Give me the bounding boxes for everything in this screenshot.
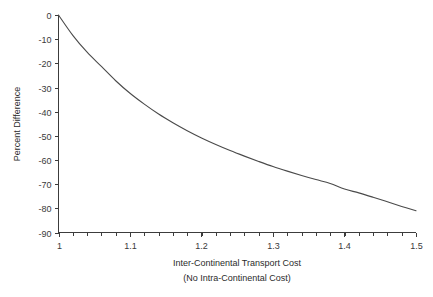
y-tick-label: -40 <box>38 108 51 118</box>
y-tick-label: -60 <box>38 156 51 166</box>
chart-figure: 0-10-20-30-40-50-60-70-80-90 11.11.21.31… <box>0 0 433 297</box>
y-tick-label: -30 <box>38 84 51 94</box>
x-axis-title: Inter-Continental Transport Cost <box>173 258 302 268</box>
y-tick-label: -80 <box>38 204 51 214</box>
chart-plot-area: 0-10-20-30-40-50-60-70-80-90 11.11.21.31… <box>0 0 433 297</box>
y-axis-ticks <box>55 16 59 234</box>
x-tick-label: 1.5 <box>410 241 423 251</box>
x-tick-label: 1 <box>57 241 62 251</box>
y-tick-label: 0 <box>46 11 51 21</box>
x-axis-subtitle: (No Intra-Continental Cost) <box>183 273 291 283</box>
y-tick-label: -90 <box>38 229 51 239</box>
x-axis-ticks <box>60 233 417 237</box>
y-tick-label: -70 <box>38 180 51 190</box>
data-series-line <box>59 15 417 211</box>
y-tick-label: -20 <box>38 59 51 69</box>
x-tick-label: 1.1 <box>124 241 137 251</box>
y-tick-label: -50 <box>38 132 51 142</box>
y-axis-tick-labels: 0-10-20-30-40-50-60-70-80-90 <box>38 11 51 239</box>
y-axis-title: Percent Difference <box>12 87 22 161</box>
x-tick-label: 1.4 <box>338 241 351 251</box>
x-tick-label: 1.2 <box>195 241 208 251</box>
x-tick-label: 1.3 <box>267 241 280 251</box>
x-axis-tick-labels: 11.11.21.31.41.5 <box>57 241 423 251</box>
y-tick-label: -10 <box>38 35 51 45</box>
